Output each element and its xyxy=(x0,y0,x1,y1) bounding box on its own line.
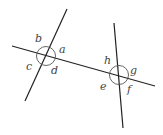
angle-label-d: d xyxy=(51,64,58,77)
angle-label-g: g xyxy=(130,64,137,77)
angle-label-h: h xyxy=(104,54,111,67)
angle-label-e: e xyxy=(100,80,107,93)
angle-label-f: f xyxy=(126,83,133,96)
transversal-diagram: b a c d h g e f xyxy=(0,0,163,135)
angle-label-a: a xyxy=(59,43,66,56)
angle-label-b: b xyxy=(35,32,42,45)
angle-label-c: c xyxy=(26,60,32,73)
